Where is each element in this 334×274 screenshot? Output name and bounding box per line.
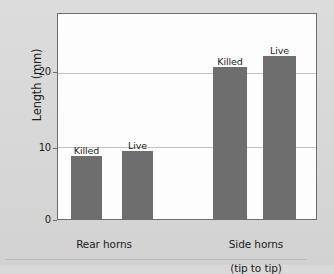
page-edge-artifact [6,259,306,260]
bar-rear-live [122,151,153,219]
x-group-label-rear-horns: Rear horns [62,226,146,250]
x-group-label-rear-horns-line1: Rear horns [76,238,132,250]
y-tick-label-10: 10 [31,142,51,153]
plot-area: Killed Live Killed Live [57,13,317,220]
bar-label-rear-killed: Killed [64,145,109,156]
bar-side-live [263,56,296,219]
y-tick-label-0: 0 [31,214,51,225]
bar-side-killed [213,67,247,219]
y-axis-label: Length (mm) [30,30,44,140]
bar-rear-killed [71,156,102,219]
y-tick-label-20: 20 [31,66,51,77]
x-group-label-side-horns-line1: Side horns [229,238,283,250]
bar-label-side-live: Live [257,45,302,56]
x-group-label-side-horns-line2: (tip to tip) [230,262,282,274]
x-group-label-side-horns: Side horns (tip to tip) [206,226,306,274]
bar-label-side-killed: Killed [207,56,253,67]
bar-label-rear-live: Live [115,140,160,151]
y-tick-mark-0 [53,220,57,221]
